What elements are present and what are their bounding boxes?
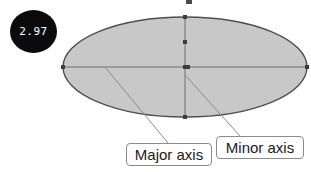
scale-badge-value: 2.97: [19, 26, 48, 37]
major-axis-callout-label: Major axis: [135, 146, 203, 163]
handle-upper-mid[interactable]: [183, 40, 187, 44]
handle-minor-bottom[interactable]: [183, 115, 187, 119]
minor-axis-callout-label: Minor axis: [226, 139, 294, 156]
scale-badge[interactable]: 2.97: [10, 10, 57, 53]
minor-axis-callout[interactable]: Minor axis: [216, 136, 304, 159]
handle-major-right[interactable]: [305, 65, 309, 69]
figure-canvas: 2.97 Major axis Minor axis: [0, 0, 311, 172]
handle-major-left[interactable]: [61, 65, 65, 69]
handle-center[interactable]: [183, 65, 190, 69]
handle-minor-top[interactable]: [183, 15, 187, 19]
major-axis-callout[interactable]: Major axis: [126, 143, 212, 166]
top-edge-marker: [186, 0, 192, 4]
